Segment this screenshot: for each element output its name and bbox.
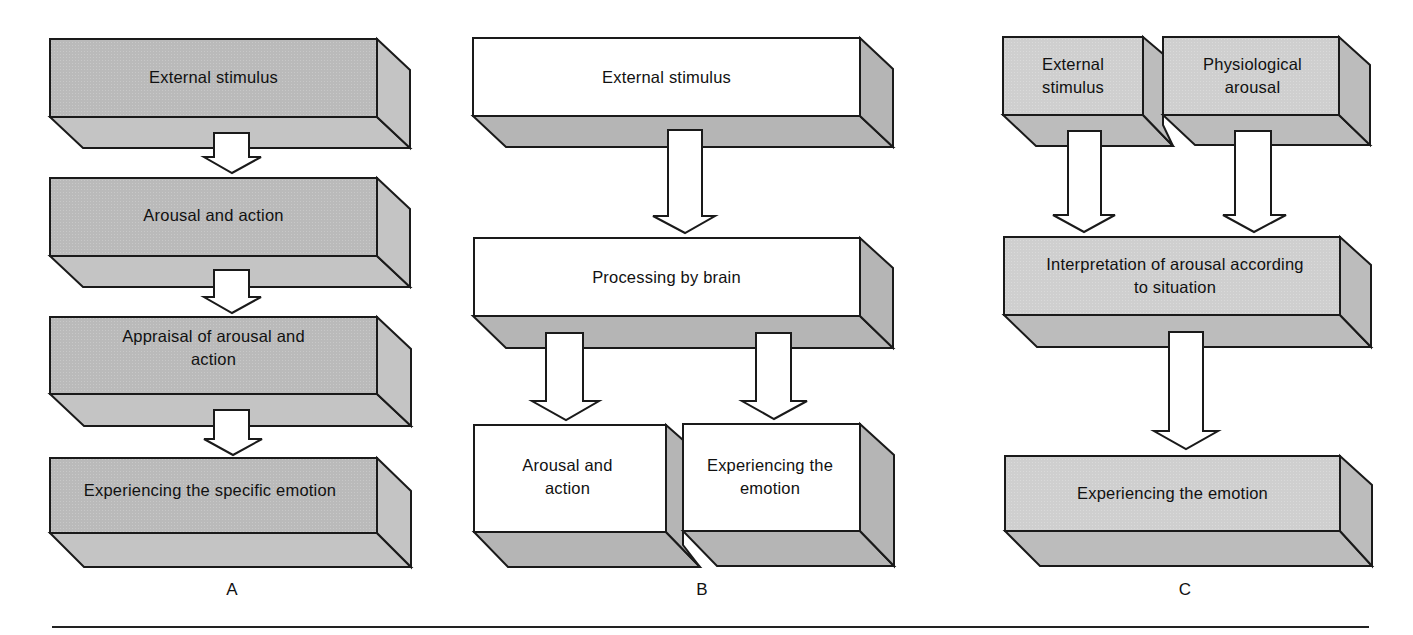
- bottom-divider-rule: [52, 626, 1369, 628]
- panel-c-label-physiological-arousal: Physiological arousal: [1175, 50, 1330, 102]
- panel-a-label-appraisal: Appraisal of arousal and action: [100, 322, 327, 374]
- panel-c-letter: C: [1165, 580, 1205, 600]
- panel-b-label-arousal-and-action: Arousal and action: [500, 451, 635, 503]
- panel-c-label-external-stimulus: External stimulus: [1025, 50, 1121, 102]
- panel-b-label-experiencing-emotion: Experiencing the emotion: [700, 451, 840, 503]
- panel-b-box-2: [473, 238, 893, 348]
- panel-c-arrow-3: [1154, 332, 1218, 449]
- panel-a-label-external-stimulus: External stimulus: [50, 62, 377, 92]
- panel-a-letter: A: [212, 580, 252, 600]
- panel-c-label-interpretation: Interpretation of arousal according to s…: [1040, 250, 1310, 302]
- panel-a-label-experiencing-specific: Experiencing the specific emotion: [70, 464, 350, 516]
- panel-c-label-experiencing-emotion: Experiencing the emotion: [1005, 478, 1340, 508]
- panel-a-box-1: [50, 39, 410, 148]
- panel-c-arrow-2: [1223, 131, 1286, 232]
- panel-c-box-4: [1005, 456, 1372, 566]
- panel-b-letter: B: [682, 580, 722, 600]
- panel-b-label-processing-by-brain: Processing by brain: [473, 262, 860, 292]
- panel-b-label-external-stimulus: External stimulus: [473, 62, 860, 92]
- panel-a-label-arousal-and-action: Arousal and action: [50, 200, 377, 230]
